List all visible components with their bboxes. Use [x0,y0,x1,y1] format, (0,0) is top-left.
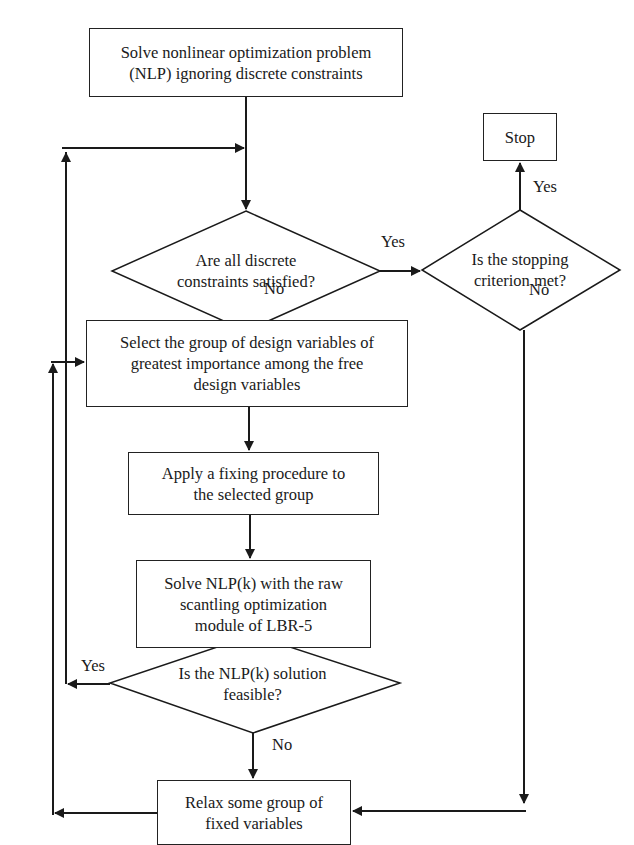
apply-fixing-line2: the selected group [162,484,345,505]
start-label-line2: (NLP) ignoring discrete constraints [121,63,372,84]
select-group-line2: greatest importance among the free [120,353,374,374]
edge-label-discrete-no: No [264,279,284,299]
relax-line1: Relax some group of [185,792,323,813]
solve-nlpk-line2: scantling optimization [164,594,343,615]
decision-feasible-text: Is the NLP(k) solution feasible? [150,663,355,705]
stop-label: Stop [505,127,535,148]
solve-nlpk-line3: module of LBR-5 [164,615,343,636]
decision-discrete-line2: constraints satisfied? [146,271,346,292]
apply-fixing-line1: Apply a fixing procedure to [162,463,345,484]
edge-label-stopping-no: No [529,280,549,300]
decision-discrete-line1: Are all discrete [146,250,346,271]
solve-nlpk-line1: Solve NLP(k) with the raw [164,573,343,594]
relax-line2: fixed variables [185,813,323,834]
select-group-box: Select the group of design variables of … [86,320,408,407]
decision-stopping-line1: Is the stopping [445,249,595,270]
edge-label-stopping-yes: Yes [533,177,557,197]
start-box: Solve nonlinear optimization problem (NL… [89,28,403,97]
select-group-line3: design variables [120,374,374,395]
solve-nlpk-box: Solve NLP(k) with the raw scantling opti… [136,560,371,648]
select-group-line1: Select the group of design variables of [120,332,374,353]
decision-discrete-text: Are all discrete constraints satisfied? [146,250,346,292]
decision-stopping-text: Is the stopping criterion met? [445,249,595,291]
stop-box: Stop [483,113,557,161]
edge-label-feasible-yes: Yes [81,656,105,676]
decision-stopping-line2: criterion met? [445,270,595,291]
start-label-line1: Solve nonlinear optimization problem [121,42,372,63]
decision-feasible-line2: feasible? [150,684,355,705]
edge-label-feasible-no: No [272,735,292,755]
apply-fixing-box: Apply a fixing procedure to the selected… [128,452,379,515]
relax-box: Relax some group of fixed variables [157,780,351,845]
decision-feasible-line1: Is the NLP(k) solution [150,663,355,684]
edge-label-discrete-yes: Yes [381,232,405,252]
